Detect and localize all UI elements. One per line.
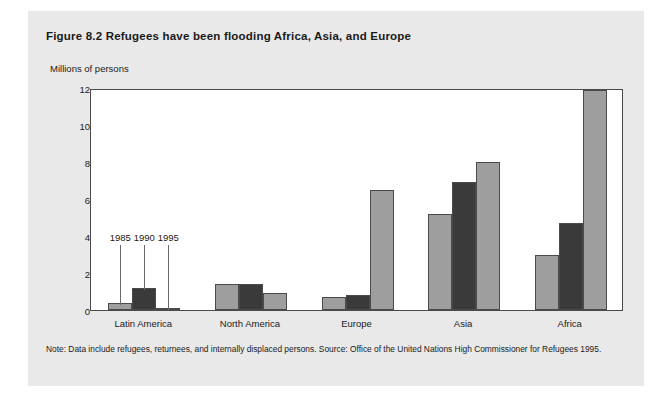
- bar-1990-africa[interactable]: [559, 223, 583, 310]
- y-tick-label: 8: [64, 158, 90, 169]
- x-tick-label: North America: [220, 318, 280, 329]
- y-axis-title: Millions of persons: [50, 63, 129, 74]
- bar-1995-africa[interactable]: [583, 90, 607, 310]
- y-tick-label: 10: [64, 121, 90, 132]
- figure-panel: Figure 8.2 Refugees have been flooding A…: [28, 11, 644, 386]
- y-tick-label: 12: [64, 84, 90, 95]
- x-tick-label: Europe: [341, 318, 372, 329]
- bar-group: [215, 90, 287, 310]
- series-annotation-label-1990: 1990: [134, 232, 155, 243]
- bar-1990-asia[interactable]: [452, 182, 476, 310]
- y-axis-ticks: 024681012: [50, 89, 90, 311]
- chart-plot-area: 198519901995: [90, 89, 623, 311]
- y-tick-label: 4: [64, 232, 90, 243]
- bar-group: [322, 90, 394, 310]
- chart-plot-wrapper: 024681012 198519901995 Latin AmericaNort…: [50, 79, 630, 329]
- bar-1990-latin-america[interactable]: [132, 288, 156, 310]
- bar-group: [535, 90, 607, 310]
- bar-1990-north-america[interactable]: [239, 284, 263, 310]
- y-tick-label: 6: [64, 195, 90, 206]
- x-tick-label: Latin America: [115, 318, 173, 329]
- y-tick-label: 0: [64, 306, 90, 317]
- bar-1985-africa[interactable]: [535, 255, 559, 311]
- y-tick-label: 2: [64, 269, 90, 280]
- series-annotation-leader-line-1990: [144, 245, 145, 290]
- series-annotation-label-1985: 1985: [110, 232, 131, 243]
- series-annotation-leader-line-1995: [168, 245, 169, 310]
- bar-1985-north-america[interactable]: [215, 284, 239, 310]
- series-annotation-leader-line-1985: [120, 245, 121, 305]
- bar-1985-europe[interactable]: [322, 297, 346, 310]
- series-annotation-label-1995: 1995: [158, 232, 179, 243]
- x-tick-label: Asia: [454, 318, 472, 329]
- bar-group: [428, 90, 500, 310]
- bar-1990-europe[interactable]: [346, 295, 370, 310]
- bar-1995-asia[interactable]: [476, 162, 500, 310]
- bar-1995-europe[interactable]: [370, 190, 394, 310]
- figure-note: Note: Data include refugees, returnees, …: [46, 343, 626, 355]
- bar-1985-asia[interactable]: [428, 214, 452, 310]
- x-tick-label: Africa: [558, 318, 582, 329]
- bar-1995-north-america[interactable]: [263, 293, 287, 310]
- page-title: Figure 8.2 Refugees have been flooding A…: [46, 30, 411, 42]
